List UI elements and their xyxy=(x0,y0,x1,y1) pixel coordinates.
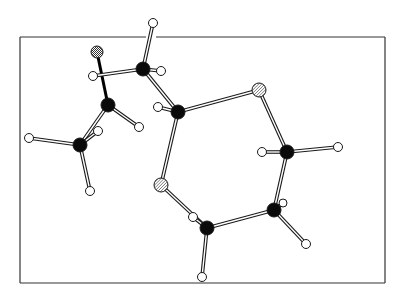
hydrogen-atom-icon xyxy=(25,134,34,143)
hydrogen-atom-icon xyxy=(258,148,267,157)
carbon-atom-icon xyxy=(267,203,281,217)
hydrogen-atom-icon xyxy=(157,67,166,76)
bond-C4-O1 xyxy=(178,90,259,112)
oxygen-atom-icon xyxy=(252,83,266,97)
hydrogen-atom-icon xyxy=(154,103,163,112)
hydrogen-atom-icon xyxy=(302,240,311,249)
hydrogen-atom-icon xyxy=(135,123,144,132)
hydrogen-atom-icon xyxy=(94,127,103,136)
bond-X1-C2 xyxy=(97,52,108,105)
carbon-atom-icon xyxy=(280,145,294,159)
carbon-atom-icon xyxy=(200,221,214,235)
carbon-atom-icon xyxy=(101,98,115,112)
hydrogen-atom-icon xyxy=(334,143,343,152)
hydrogen-atom-icon xyxy=(86,187,95,196)
hydrogen-atom-icon xyxy=(198,273,207,282)
oxygen-atom-icon xyxy=(154,178,168,192)
carbon-atom-icon xyxy=(171,105,185,119)
hydrogen-atom-icon xyxy=(149,19,158,28)
molecule-svg xyxy=(0,0,406,299)
bond-O1-C5 xyxy=(259,90,287,152)
bond-C5-H10 xyxy=(287,147,338,152)
carbon-atom-icon xyxy=(136,62,150,76)
frame-border xyxy=(20,37,385,283)
hydrogen-atom-icon xyxy=(189,213,198,222)
bond-C3-H5 xyxy=(29,138,80,145)
halogen-atom-icon xyxy=(91,46,103,58)
bond-C6-C7 xyxy=(207,210,274,228)
carbon-atom-icon xyxy=(73,138,87,152)
molecule-diagram xyxy=(0,0,406,299)
hydrogen-atom-icon xyxy=(89,72,98,81)
bond-C4-O2 xyxy=(161,112,178,185)
